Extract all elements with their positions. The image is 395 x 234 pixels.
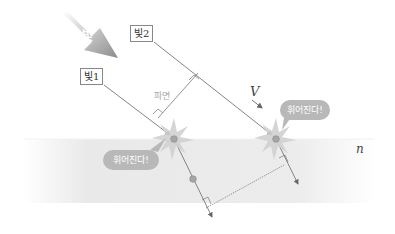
medium-band [24,139,374,203]
bent-bubble-1: 휘어진다! [103,150,159,170]
hit-point-2 [273,136,280,143]
velocity-label: V [250,84,259,99]
bent-bubble-2: 휘어진다! [280,100,330,120]
hit-point-1 [171,136,178,143]
ray-1-label: 빛1 [80,68,103,85]
mid-point [190,176,197,183]
light-arrow-label: 빛 [82,26,93,43]
velocity-arrow-icon [252,100,262,108]
ray-2-label: 빛2 [130,25,153,42]
diagram-graphics [0,0,395,234]
refraction-diagram: 빛 빛2 빛1 파면 V n 휘어진다! 휘어진다! [0,0,395,234]
medium-index-label: n [356,142,364,156]
wavefront-label: 파면 [154,89,170,102]
